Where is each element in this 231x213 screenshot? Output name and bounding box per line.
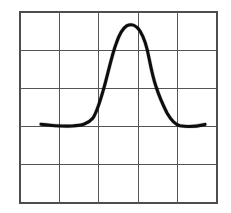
grid-chart-svg [0, 0, 231, 213]
figure-container [0, 0, 231, 213]
